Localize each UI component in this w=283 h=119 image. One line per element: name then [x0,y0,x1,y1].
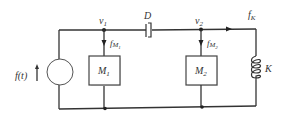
force-source-icon [47,59,73,85]
fm2-arrow-icon [199,40,204,46]
fm1-arrow-icon [102,40,107,46]
node-v2-label: v2 [195,15,203,28]
node-ground-1-dot [103,107,107,111]
spring-k-icon [252,56,261,80]
source-label: f(t) [15,70,28,82]
circuit-diagram: f(t) v1 fM1 M1 D v2 fM2 M2 fK K [0,0,283,119]
damper-cup [148,23,151,37]
top-wire-right [152,29,256,30]
fm1-label: fM1 [110,38,121,50]
fm2-label: fM2 [207,38,218,50]
damper-label: D [143,10,152,21]
source-arrow-head-icon [35,64,39,69]
fk-label: fK [248,9,256,22]
spring-label: K [264,63,273,74]
fk-arrow-icon [226,27,232,32]
node-v1-label: v1 [99,15,107,28]
node-ground-2-dot [200,105,204,109]
bottom-wire [59,106,256,109]
